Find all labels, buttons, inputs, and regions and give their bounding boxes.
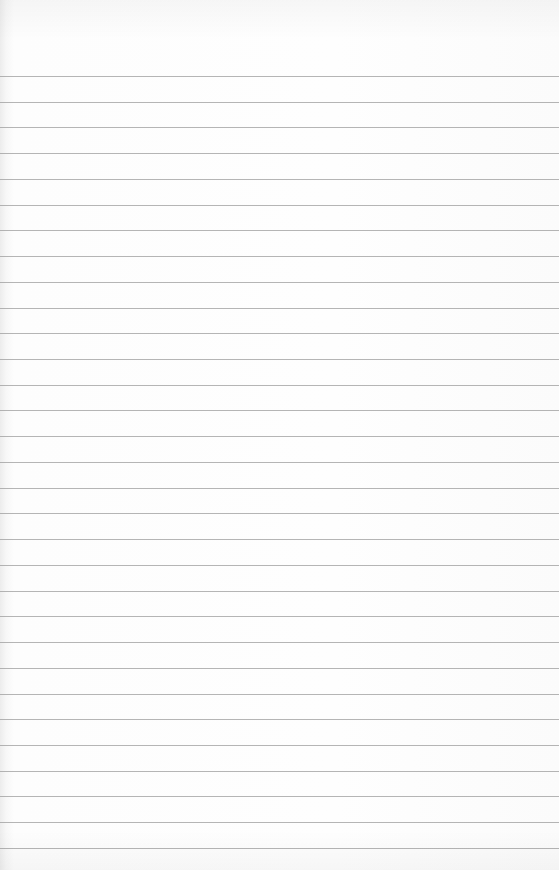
ruled-line bbox=[0, 282, 559, 283]
ruled-line bbox=[0, 127, 559, 128]
ruled-line bbox=[0, 153, 559, 154]
ruled-line bbox=[0, 230, 559, 231]
ruled-line bbox=[0, 308, 559, 309]
ruled-line bbox=[0, 745, 559, 746]
ruled-line bbox=[0, 591, 559, 592]
ruled-line bbox=[0, 719, 559, 720]
ruled-line bbox=[0, 539, 559, 540]
lined-paper-sheet bbox=[0, 0, 559, 870]
ruled-line bbox=[0, 333, 559, 334]
ruled-line bbox=[0, 848, 559, 849]
ruled-line bbox=[0, 385, 559, 386]
ruled-line bbox=[0, 694, 559, 695]
ruled-line bbox=[0, 359, 559, 360]
ruled-line bbox=[0, 179, 559, 180]
ruled-line bbox=[0, 102, 559, 103]
ruled-line bbox=[0, 256, 559, 257]
ruled-line bbox=[0, 410, 559, 411]
ruled-line bbox=[0, 771, 559, 772]
ruled-line bbox=[0, 513, 559, 514]
ruled-line bbox=[0, 205, 559, 206]
ruled-line bbox=[0, 822, 559, 823]
ruled-line bbox=[0, 642, 559, 643]
ruled-line bbox=[0, 462, 559, 463]
ruled-line bbox=[0, 436, 559, 437]
ruled-line bbox=[0, 565, 559, 566]
ruled-line bbox=[0, 76, 559, 77]
ruled-line bbox=[0, 616, 559, 617]
ruled-line bbox=[0, 796, 559, 797]
ruled-line bbox=[0, 668, 559, 669]
ruled-line bbox=[0, 488, 559, 489]
